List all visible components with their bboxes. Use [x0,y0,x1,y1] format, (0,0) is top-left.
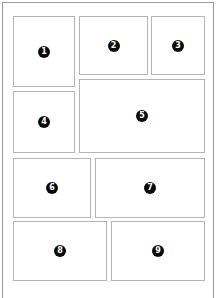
panel-5: 5 [79,79,205,153]
panel-9: 9 [111,221,205,281]
panel-number-badge: 5 [136,110,148,122]
panel-3: 3 [151,16,205,75]
panel-number-badge: 6 [46,182,58,194]
panel-number-badge: 2 [108,40,120,52]
panel-8: 8 [13,221,107,281]
panel-7: 7 [95,158,205,218]
panel-1: 1 [13,16,75,87]
panel-number-badge: 7 [144,182,156,194]
panel-2: 2 [79,16,148,75]
panel-number-badge: 8 [54,245,66,257]
panel-number-badge: 1 [38,46,50,58]
panel-4: 4 [13,91,75,153]
panel-number-badge: 3 [172,40,184,52]
panel-number-badge: 9 [152,245,164,257]
panel-number-badge: 4 [38,116,50,128]
panel-6: 6 [13,158,91,218]
